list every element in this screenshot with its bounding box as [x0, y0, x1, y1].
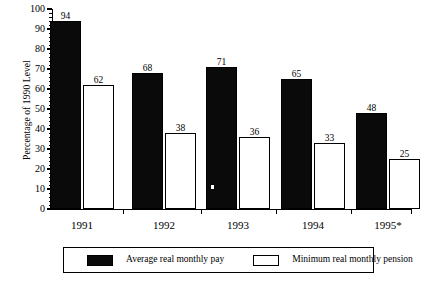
x-axis-tick — [351, 209, 352, 214]
x-axis-label-1991: 1991 — [71, 220, 93, 231]
x-axis-label-1995: 1995* — [374, 220, 402, 231]
bar-chart-figure: Percentage of 1990 Level 010203040506070… — [0, 0, 434, 281]
legend-swatch-light-icon — [253, 255, 279, 266]
y-axis-title: Percentage of 1990 Level — [22, 10, 32, 210]
bar-value-label: 68 — [143, 64, 153, 74]
bar-dark-1992: 68 — [132, 73, 163, 209]
bar-light-1992: 38 — [165, 133, 196, 209]
legend-label-minimum-real-monthly-pension: Minimum real monthly pension — [292, 255, 413, 265]
bar-value-label: 25 — [400, 150, 410, 160]
x-axis-label-1993: 1993 — [227, 220, 249, 231]
bar-light-1995: 25 — [389, 159, 420, 209]
x-axis-label-1994: 1994 — [302, 220, 324, 231]
chart-legend: Average real monthly pay Minimum real mo… — [63, 247, 374, 273]
legend-swatch-dark-icon — [87, 255, 113, 266]
y-axis-tick-label: 30 — [35, 144, 45, 154]
y-axis-minor-tick — [49, 13, 52, 14]
x-axis-line — [52, 209, 412, 210]
y-axis-tick-label: 80 — [35, 44, 45, 54]
y-axis-tick-label: 60 — [35, 84, 45, 94]
y-axis-tick-label: 70 — [35, 64, 45, 74]
bar-value-label: 33 — [325, 134, 335, 144]
x-axis-tick — [276, 209, 277, 214]
y-axis-tick-label: 90 — [35, 24, 45, 34]
bar-value-label: 62 — [94, 76, 104, 86]
scan-artifact — [211, 185, 214, 189]
y-axis-tick-label: 20 — [35, 164, 45, 174]
bar-value-label: 71 — [217, 58, 227, 68]
x-axis-tick — [201, 209, 202, 214]
bar-value-label: 48 — [367, 104, 377, 114]
x-axis-label-1992: 1992 — [153, 220, 175, 231]
bar-value-label: 65 — [292, 70, 302, 80]
y-axis-tick-label: 100 — [30, 4, 45, 14]
bar-dark-1994: 65 — [281, 79, 312, 209]
y-axis-tick-label: 10 — [35, 184, 45, 194]
bar-value-label: 94 — [61, 12, 71, 22]
bar-light-1994: 33 — [314, 143, 345, 209]
y-axis-tick-label: 40 — [35, 124, 45, 134]
x-axis-tick — [123, 209, 124, 214]
bar-value-label: 38 — [176, 124, 186, 134]
legend-item-minimum-real-monthly-pension: Minimum real monthly pension — [253, 255, 413, 266]
y-axis-tick — [47, 8, 52, 9]
bar-value-label: 36 — [250, 128, 260, 138]
plot-area: 0102030405060708090100 94626838713665334… — [52, 9, 412, 209]
legend-item-average-real-monthly-pay: Average real monthly pay — [87, 255, 224, 266]
bar-dark-1991: 94 — [50, 21, 81, 209]
y-axis-tick-label: 50 — [35, 104, 45, 114]
legend-label-average-real-monthly-pay: Average real monthly pay — [126, 255, 224, 265]
bar-light-1993: 36 — [239, 137, 270, 209]
y-axis-minor-tick — [49, 17, 52, 18]
y-axis-tick-label: 0 — [40, 204, 45, 214]
x-axis-end-tick — [411, 209, 412, 214]
bar-dark-1995: 48 — [356, 113, 387, 209]
bar-light-1991: 62 — [83, 85, 114, 209]
